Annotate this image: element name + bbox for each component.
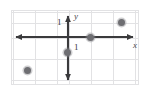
data-point [24, 67, 31, 74]
x-axis-label: x [133, 41, 137, 50]
data-point [118, 19, 125, 26]
coordinate-plane-figure: 1 1 y x [0, 0, 149, 93]
x-axis-unit-label: 1 [74, 43, 79, 52]
data-point [87, 34, 94, 41]
y-axis-label: y [74, 12, 78, 21]
data-point [64, 49, 71, 56]
y-axis-unit-label: 1 [57, 18, 62, 27]
